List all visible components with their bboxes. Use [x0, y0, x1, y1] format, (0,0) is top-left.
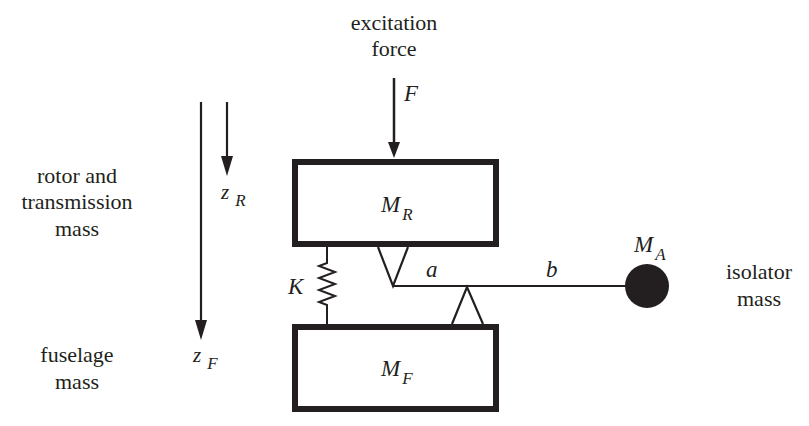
- excitation-arrowhead-icon: [388, 142, 400, 158]
- isolator-desc-line2: mass: [737, 286, 781, 311]
- zR-label: zR: [220, 180, 246, 210]
- upper-pivot-icon: [378, 247, 408, 286]
- fuselage-desc-line2: mass: [55, 369, 99, 394]
- zF-sub: F: [206, 354, 218, 373]
- zF-arrow: [195, 102, 207, 340]
- MF-label: MF: [380, 356, 413, 388]
- MF-main: M: [380, 356, 402, 381]
- zR-sub: R: [234, 191, 246, 210]
- MR-main: M: [380, 192, 402, 217]
- excitation-label-line2: force: [371, 36, 416, 61]
- spring-label: K: [287, 274, 305, 299]
- fuselage-desc-line1: fuselage: [40, 342, 113, 367]
- MA-sub: A: [654, 245, 666, 264]
- isolator-mass: [625, 264, 669, 308]
- MR-sub: R: [401, 205, 413, 224]
- MR-label: MR: [380, 192, 413, 224]
- excitation-arrow: [388, 78, 400, 158]
- zF-main: z: [192, 343, 201, 367]
- excitation-label-line1: excitation: [351, 10, 438, 35]
- isolator-desc-line1: isolator: [726, 259, 793, 284]
- zF-label: zF: [192, 343, 218, 373]
- rotor-desc-line2: transmission: [21, 189, 132, 214]
- zR-arrowhead-icon: [221, 156, 233, 176]
- MA-main: M: [633, 232, 655, 257]
- lever-arm-b-label: b: [546, 257, 558, 282]
- lower-pivot-icon: [452, 287, 483, 324]
- isolator-diagram: excitation force F rotor and transmissio…: [0, 0, 809, 426]
- zF-arrowhead-icon: [195, 320, 207, 340]
- force-symbol: F: [403, 81, 419, 106]
- rotor-desc-line3: mass: [55, 216, 99, 241]
- spring-icon: [319, 247, 335, 324]
- MA-label: MA: [633, 232, 666, 264]
- MF-sub: F: [401, 369, 413, 388]
- lever-arm-a-label: a: [426, 257, 438, 282]
- zR-main: z: [220, 180, 229, 204]
- zR-arrow: [221, 102, 233, 176]
- rotor-desc-line1: rotor and: [37, 163, 117, 188]
